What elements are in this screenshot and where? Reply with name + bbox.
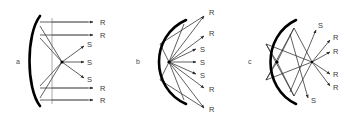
ray-s-2 bbox=[62, 46, 84, 62]
ray-label-r-3: R bbox=[333, 70, 339, 79]
focus-link bbox=[40, 62, 62, 98]
focal-point bbox=[167, 60, 170, 63]
ray-label-s-4: S bbox=[87, 75, 92, 84]
ray-r-1 bbox=[312, 40, 330, 62]
ray-label-s-5: S bbox=[311, 96, 316, 105]
ray-r-4 bbox=[312, 62, 330, 86]
ray-label-r-6: R bbox=[100, 96, 106, 105]
panel-c: SRRRRSc bbox=[248, 20, 339, 105]
ray-label-r-1: R bbox=[100, 31, 106, 40]
ray-label-r-0: R bbox=[209, 8, 215, 17]
panels-group: RRSSSRRaRRSSSRRbSRRRRSc bbox=[16, 8, 339, 114]
optics-figure: RRSSSRRaRRSSSRRbSRRRRSc bbox=[0, 0, 344, 123]
panel-a: RRSSSRRa bbox=[16, 16, 106, 106]
ray-label-s-0: S bbox=[318, 21, 323, 30]
ray-s-5 bbox=[290, 34, 308, 98]
panel-caption-a: a bbox=[16, 58, 20, 65]
panel-caption-c: c bbox=[248, 58, 252, 65]
focal-point bbox=[275, 60, 278, 63]
ray-label-s-2: S bbox=[87, 40, 92, 49]
mirror-surface bbox=[271, 20, 297, 104]
ray-label-r-5: R bbox=[209, 85, 215, 94]
convergence-point bbox=[311, 61, 313, 63]
ray-label-r-5: R bbox=[100, 84, 106, 93]
mirror-surface bbox=[30, 16, 41, 106]
focus-link bbox=[40, 26, 62, 62]
ray-label-s-4: S bbox=[200, 71, 205, 80]
ray-label-s-3: S bbox=[200, 58, 205, 67]
panel-caption-b: b bbox=[136, 58, 140, 65]
panel-b: RRSSSRRb bbox=[136, 8, 215, 114]
ray-label-r-1: R bbox=[333, 33, 339, 42]
ray-label-r-0: R bbox=[100, 18, 106, 27]
ray-r-0 bbox=[169, 16, 204, 62]
ray-r-6 bbox=[169, 62, 204, 108]
ray-label-s-2: S bbox=[200, 45, 205, 54]
figure-canvas: RRSSSRRaRRSSSRRbSRRRRSc bbox=[0, 0, 344, 123]
focal-point bbox=[60, 60, 63, 63]
ray-r-3 bbox=[312, 62, 330, 74]
ray-r-2 bbox=[312, 52, 330, 62]
ray-label-r-4: R bbox=[333, 83, 339, 92]
ray-label-r-1: R bbox=[209, 29, 215, 38]
focus-link bbox=[40, 38, 62, 62]
ray-label-s-3: S bbox=[87, 58, 92, 67]
ray-s-4 bbox=[62, 62, 84, 78]
ray-label-r-2: R bbox=[333, 47, 339, 56]
focus-link bbox=[160, 80, 204, 108]
ray-label-r-6: R bbox=[209, 105, 215, 114]
focus-link bbox=[160, 16, 204, 44]
focus-link bbox=[40, 62, 62, 86]
